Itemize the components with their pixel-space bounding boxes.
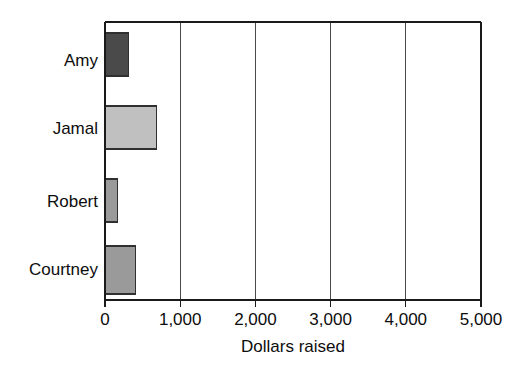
category-label-jamal: Jamal [53, 119, 98, 138]
x-axis-title: Dollars raised [241, 337, 345, 356]
plot-background [105, 22, 481, 300]
x-tick-labels: 0 1,000 2,000 3,000 4,000 5,000 [100, 310, 502, 329]
bar-chart: Amy Jamal Robert Courtney 0 1,000 2,000 … [0, 0, 519, 367]
x-tick-label-3000: 3,000 [309, 310, 352, 329]
bar-courtney [105, 246, 136, 294]
x-tick-label-4000: 4,000 [385, 310, 428, 329]
bar-robert [105, 179, 118, 222]
chart-canvas: Amy Jamal Robert Courtney 0 1,000 2,000 … [0, 0, 519, 367]
x-tick-marks [105, 300, 481, 307]
x-tick-label-2000: 2,000 [234, 310, 277, 329]
x-tick-label-1000: 1,000 [159, 310, 202, 329]
x-tick-label-5000: 5,000 [460, 310, 503, 329]
x-tick-label-0: 0 [100, 310, 109, 329]
bar-jamal [105, 106, 157, 149]
category-label-amy: Amy [64, 51, 99, 70]
bar-amy [105, 33, 128, 76]
category-label-robert: Robert [47, 192, 98, 211]
category-labels: Amy Jamal Robert Courtney [29, 51, 98, 279]
category-label-courtney: Courtney [29, 260, 98, 279]
